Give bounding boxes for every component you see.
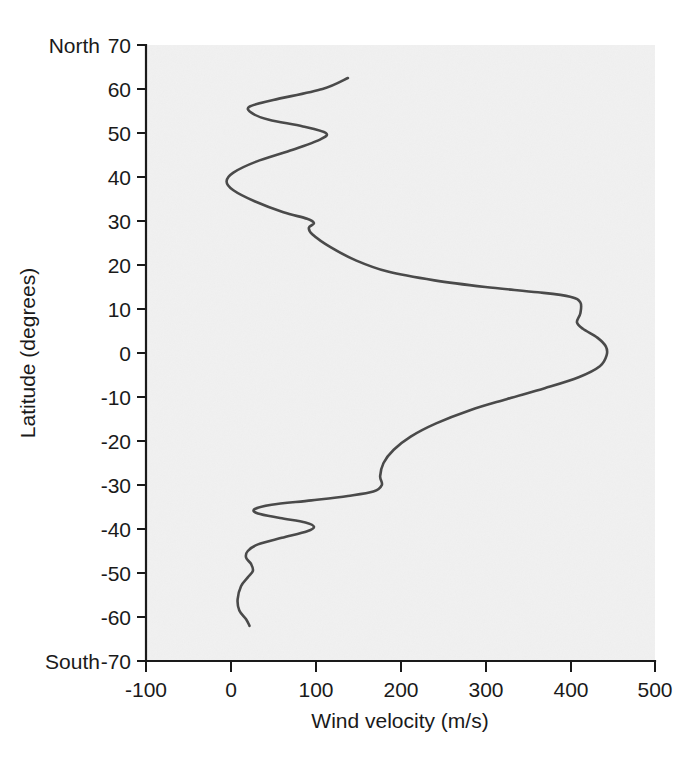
x-tick-label: 0 — [225, 678, 237, 701]
y-tick-label: -60 — [101, 606, 131, 629]
y-axis-title: Latitude (degrees) — [16, 268, 39, 438]
y-tick-label: 40 — [108, 166, 131, 189]
y-tick-label: 10 — [108, 298, 131, 321]
y-tick-label: -40 — [101, 518, 131, 541]
y-tick-label: -50 — [101, 562, 131, 585]
x-tick-label: 500 — [637, 678, 672, 701]
y-tick-label: 20 — [108, 254, 131, 277]
x-tick-label: 400 — [553, 678, 588, 701]
x-axis-title: Wind velocity (m/s) — [311, 709, 488, 732]
y-tick-label: 50 — [108, 122, 131, 145]
y-tick-label: 70 — [108, 34, 131, 57]
x-axis-tick-labels: -100 0 100 200 300 400 500 — [125, 678, 673, 701]
y-tick-label: 0 — [119, 342, 131, 365]
x-tick-label: 200 — [383, 678, 418, 701]
y-tick-label: 60 — [108, 78, 131, 101]
paper-grain-overlay — [146, 45, 655, 661]
north-label: North — [49, 34, 100, 57]
y-tick-label: 30 — [108, 210, 131, 233]
x-tick-label: 100 — [298, 678, 333, 701]
y-axis-tick-labels: 70 60 50 40 30 20 10 0 -10 -20 -30 -40 -… — [101, 34, 131, 673]
y-tick-label: -20 — [101, 430, 131, 453]
south-label: South — [45, 650, 100, 673]
y-tick-label: -70 — [101, 650, 131, 673]
x-tick-label: 300 — [468, 678, 503, 701]
wind-velocity-latitude-chart: 70 60 50 40 30 20 10 0 -10 -20 -30 -40 -… — [0, 0, 685, 774]
y-tick-label: -30 — [101, 474, 131, 497]
chart-canvas: 70 60 50 40 30 20 10 0 -10 -20 -30 -40 -… — [0, 0, 685, 774]
y-tick-label: -10 — [101, 386, 131, 409]
x-axis-ticks — [146, 661, 655, 672]
x-tick-label: -100 — [125, 678, 167, 701]
y-axis-ticks — [137, 45, 146, 661]
